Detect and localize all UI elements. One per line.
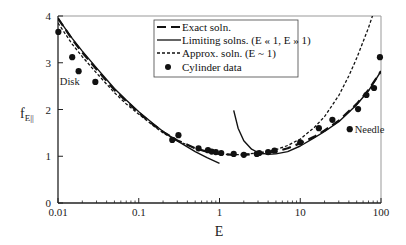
data-point-cylinder xyxy=(316,125,322,131)
y-tick-label: 3 xyxy=(46,57,52,69)
legend-label-exact: Exact soln. xyxy=(182,21,231,33)
legend-label-cylinder: Cylinder data xyxy=(182,61,242,73)
data-point-cylinder xyxy=(371,85,377,91)
y-tick-label: 4 xyxy=(46,10,52,22)
y-tick-label: 1 xyxy=(46,150,52,162)
data-point-cylinder xyxy=(231,151,237,157)
y-tick-label: 2 xyxy=(46,104,52,116)
legend-swatch-marker xyxy=(165,64,171,70)
data-point-cylinder xyxy=(256,150,262,156)
x-tick-label: 1 xyxy=(217,206,223,218)
x-tick-label: 100 xyxy=(373,206,390,218)
data-point-cylinder xyxy=(297,139,303,145)
x-tick-label: 0.01 xyxy=(48,206,67,218)
chart: 0.010.1110100 01234 E fE|| Disk Needle E… xyxy=(0,0,406,245)
x-axis-ticks: 0.010.1110100 xyxy=(48,198,389,218)
data-point-cylinder xyxy=(347,126,353,132)
y-axis-label-subscript: E|| xyxy=(25,113,34,123)
x-tick-label: 10 xyxy=(295,206,307,218)
data-point-cylinder xyxy=(76,68,82,74)
data-point-cylinder xyxy=(377,54,383,60)
data-point-cylinder xyxy=(355,106,361,112)
data-point-cylinder xyxy=(329,117,335,123)
y-tick-label: 0 xyxy=(46,197,52,209)
annotation-disk: Disk xyxy=(60,76,81,87)
legend: Exact soln. Limiting solns. (E « 1, E » … xyxy=(154,20,311,77)
data-point-cylinder xyxy=(363,92,369,98)
data-point-cylinder xyxy=(213,149,219,155)
data-point-cylinder xyxy=(265,149,271,155)
data-point-cylinder xyxy=(271,148,277,154)
data-point-cylinder xyxy=(195,145,201,151)
data-point-cylinder xyxy=(175,132,181,138)
data-point-cylinder xyxy=(69,54,75,60)
series-line-limiting-soln-e-1 xyxy=(234,71,381,154)
x-axis-label: E xyxy=(215,224,224,239)
data-point-cylinder xyxy=(169,137,175,143)
data-point-cylinder xyxy=(241,152,247,158)
data-point-cylinder xyxy=(55,29,61,35)
legend-label-approx: Approx. soln. (E ~ 1) xyxy=(182,47,276,60)
data-point-cylinder xyxy=(218,150,224,156)
y-axis-ticks: 01234 xyxy=(46,10,64,209)
data-point-cylinder xyxy=(92,79,98,85)
y-axis-label: fE|| xyxy=(20,106,34,123)
legend-label-limiting: Limiting solns. (E « 1, E » 1) xyxy=(182,34,311,47)
x-tick-label: 0.1 xyxy=(132,206,146,218)
annotation-needle: Needle xyxy=(355,124,385,135)
